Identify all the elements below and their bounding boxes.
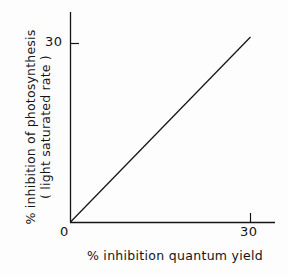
y-axis-title-line-2: ( light saturated rate ) [38, 17, 53, 237]
chart-figure: 30 0 30 % inhibition quantum yield % inh… [0, 0, 288, 277]
x-axis-title: % inhibition quantum yield [70, 248, 280, 263]
y-axis-title-line-1: % inhibition of photosynthesis [23, 30, 38, 225]
x-axis-tick-label-0: 0 [60, 224, 69, 239]
y-axis-title: % inhibition of photosynthesis ( light s… [23, 17, 53, 237]
x-axis-tick-label-30: 30 [240, 224, 258, 239]
data-series-line [71, 37, 251, 222]
